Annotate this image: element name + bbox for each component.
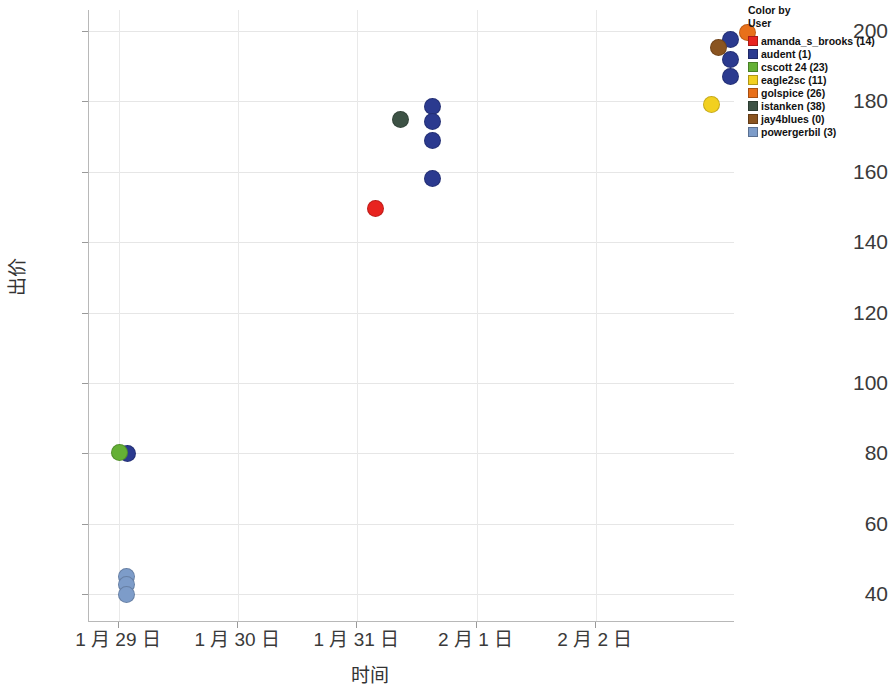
data-point[interactable] — [392, 111, 409, 128]
data-point[interactable] — [424, 98, 441, 115]
x-tick-label: 2 月 2 日 — [535, 630, 655, 649]
x-tick-label: 1 月 31 日 — [296, 630, 416, 649]
legend-item-label: cscott 24 (23) — [761, 61, 828, 74]
legend-item[interactable]: amanda_s_brooks (14) — [748, 35, 888, 48]
x-tick-label: 2 月 1 日 — [416, 630, 536, 649]
gridline — [89, 172, 734, 173]
gridline — [89, 524, 734, 525]
data-point[interactable] — [710, 39, 727, 56]
legend-item-label: golspice (26) — [761, 87, 825, 100]
y-tick-label: 60 — [812, 513, 888, 534]
legend-item[interactable]: cscott 24 (23) — [748, 61, 888, 74]
legend-entries: amanda_s_brooks (14)audent (1)cscott 24 … — [748, 35, 888, 139]
legend-item-label: jay4blues (0) — [761, 113, 825, 126]
data-point[interactable] — [424, 132, 441, 149]
gridline — [596, 10, 597, 621]
x-tick-label: 1 月 30 日 — [177, 630, 297, 649]
data-point[interactable] — [367, 200, 384, 217]
data-point[interactable] — [118, 586, 135, 603]
gridline — [357, 10, 358, 621]
legend-item[interactable]: eagle2sc (11) — [748, 74, 888, 87]
data-point[interactable] — [111, 444, 128, 461]
scatter-chart: 出价 406080100120140160180200 1 月 29 日1 月 … — [0, 0, 888, 686]
x-tick-mark — [476, 622, 477, 628]
y-tick-label: 120 — [812, 302, 888, 323]
legend-color-swatch — [748, 88, 758, 98]
legend-color-swatch — [748, 127, 758, 137]
gridline — [89, 101, 734, 102]
legend-item[interactable]: istanken (38) — [748, 100, 888, 113]
y-axis-title: 出价 — [2, 258, 29, 296]
legend-item[interactable]: powergerbil (3) — [748, 126, 888, 139]
x-tick-mark — [595, 622, 596, 628]
data-point[interactable] — [424, 170, 441, 187]
legend-item-label: powergerbil (3) — [761, 126, 836, 139]
gridline — [119, 10, 120, 621]
gridline — [89, 242, 734, 243]
legend-item-label: eagle2sc (11) — [761, 74, 826, 87]
x-tick-mark — [356, 622, 357, 628]
gridline — [89, 313, 734, 314]
y-tick-label: 160 — [812, 161, 888, 182]
legend-item[interactable]: audent (1) — [748, 48, 888, 61]
legend-color-swatch — [748, 114, 758, 124]
legend-item[interactable]: jay4blues (0) — [748, 113, 888, 126]
legend-item-label: amanda_s_brooks (14) — [761, 35, 875, 48]
gridline — [89, 453, 734, 454]
x-tick-label: 1 月 29 日 — [58, 630, 178, 649]
legend: Color by User amanda_s_brooks (14)audent… — [748, 4, 888, 139]
x-axis-title: 时间 — [0, 660, 740, 686]
legend-item[interactable]: golspice (26) — [748, 87, 888, 100]
legend-color-swatch — [748, 101, 758, 111]
data-point[interactable] — [722, 68, 739, 85]
gridline — [89, 594, 734, 595]
legend-color-swatch — [748, 62, 758, 72]
legend-item-label: audent (1) — [761, 48, 811, 61]
y-tick-label: 80 — [812, 442, 888, 463]
y-tick-label: 140 — [812, 231, 888, 252]
gridline — [238, 10, 239, 621]
legend-item-label: istanken (38) — [761, 100, 825, 113]
data-point[interactable] — [703, 96, 720, 113]
legend-color-swatch — [748, 49, 758, 59]
legend-title: Color by User — [748, 4, 888, 30]
x-tick-mark — [237, 622, 238, 628]
plot-area — [88, 10, 734, 622]
x-tick-mark — [118, 622, 119, 628]
gridline — [477, 10, 478, 621]
gridline — [89, 383, 734, 384]
gridline — [89, 31, 734, 32]
legend-color-swatch — [748, 75, 758, 85]
y-tick-label: 100 — [812, 372, 888, 393]
y-tick-label: 40 — [812, 583, 888, 604]
data-point[interactable] — [424, 113, 441, 130]
legend-color-swatch — [748, 36, 758, 46]
